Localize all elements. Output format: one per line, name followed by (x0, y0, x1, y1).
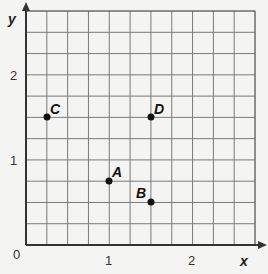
grid-lines (26, 11, 255, 245)
point-d-label: D (154, 101, 164, 117)
point-b-label: B (136, 185, 146, 201)
y-tick-label-2: 2 (10, 68, 17, 83)
y-axis-arrow-icon (22, 2, 30, 11)
y-axis-label: y (7, 11, 17, 27)
x-axis-label: x (239, 253, 249, 269)
x-tick-label-2: 2 (188, 253, 195, 268)
point-a-label: A (111, 164, 122, 180)
coordinate-plane: y x 0 1 2 2 1 A B C D (0, 0, 268, 274)
y-tick-label-1: 1 (10, 153, 17, 168)
origin-label: 0 (13, 247, 20, 262)
point-c-label: C (50, 101, 61, 117)
plot-border (26, 11, 255, 245)
point-b-dot (148, 199, 155, 206)
x-tick-label-1: 1 (105, 253, 112, 268)
x-axis-arrow-icon (258, 241, 267, 249)
